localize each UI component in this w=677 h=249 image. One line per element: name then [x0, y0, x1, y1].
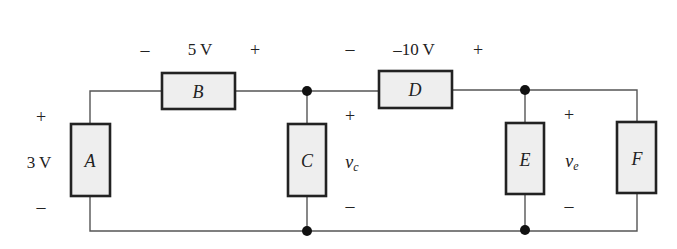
wires — [90, 90, 637, 231]
wire-d-to-f — [452, 90, 637, 122]
component-d-label: D — [409, 81, 422, 99]
a-voltage-label: 3 V — [27, 154, 52, 171]
c-voltage-symbol: v — [345, 152, 353, 172]
c-plus-sign: + — [345, 107, 355, 125]
component-e-label: E — [520, 151, 531, 169]
e-voltage-var: ve — [565, 152, 578, 172]
c-voltage-subscript: c — [353, 160, 358, 174]
wire-a-to-b — [90, 91, 162, 124]
circuit-diagram — [0, 0, 677, 249]
c-voltage-var: vc — [345, 153, 358, 173]
e-voltage-symbol: v — [565, 151, 573, 171]
e-plus-sign: + — [564, 106, 574, 124]
node-c-top — [302, 86, 312, 96]
component-c-label: C — [301, 152, 313, 170]
e-voltage-subscript: e — [573, 159, 578, 173]
node-e-top — [520, 85, 530, 95]
e-minus-sign: – — [565, 197, 574, 215]
node-c-bottom — [302, 226, 312, 236]
d-plus-sign: + — [473, 41, 483, 59]
b-minus-sign: – — [141, 41, 150, 59]
d-minus-sign: – — [346, 40, 355, 58]
b-plus-sign: + — [250, 41, 260, 59]
d-voltage-label: –10 V — [393, 41, 435, 58]
component-f-label: F — [632, 150, 643, 168]
component-b-label: B — [193, 83, 204, 101]
wire-bottom-rail — [90, 193, 637, 231]
c-minus-sign: – — [346, 197, 355, 215]
a-plus-sign: + — [36, 108, 46, 126]
a-minus-sign: – — [37, 198, 46, 216]
component-a-label: A — [85, 152, 96, 170]
b-voltage-label: 5 V — [188, 41, 213, 58]
node-e-bottom — [520, 225, 530, 235]
